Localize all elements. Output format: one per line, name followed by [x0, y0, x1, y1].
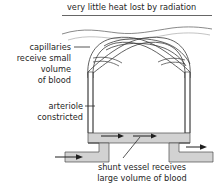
blood-outflow-arrow: [186, 144, 207, 150]
arteriole-label: arteriole constricted: [37, 101, 95, 122]
shunt-caption-line2: large volume of blood: [97, 173, 186, 183]
capillaries-label-line3: volume: [41, 64, 71, 74]
arteriole-vessel: [88, 72, 93, 133]
capillaries-label-line1: capillaries: [29, 42, 71, 52]
capillaries-label: capillaries receive small volume of bloo…: [17, 42, 90, 85]
capillary-network: [88, 37, 191, 78]
capillaries-label-line2: receive small: [17, 53, 71, 63]
skin-blood-flow-diagram: very little heat lost by radiation: [0, 0, 215, 186]
skin-surface: [62, 27, 212, 40]
capillaries-label-line4: of blood: [38, 75, 71, 85]
diagram-title: very little heat lost by radiation: [67, 2, 196, 12]
venule-vessel: [185, 72, 190, 133]
shunt-caption-line1: shunt vessel receives: [98, 162, 186, 172]
arteriole-label-line1: arteriole: [48, 101, 83, 111]
arteriole-label-line2: constricted: [37, 112, 83, 122]
